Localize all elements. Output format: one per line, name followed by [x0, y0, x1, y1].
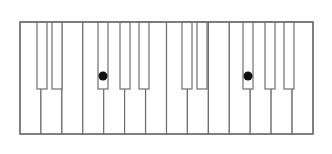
- white-key-b2: [292, 22, 313, 134]
- marker-dot-f-sharp2: [244, 72, 253, 81]
- piano-keyboard-diagram: [0, 0, 332, 154]
- black-key-c-sharp1: [37, 22, 47, 89]
- marker-dot-f-sharp1: [99, 72, 108, 81]
- white-key-e1: [62, 22, 83, 134]
- black-key-a-sharp2: [284, 22, 294, 89]
- black-key-d-sharp1: [52, 22, 62, 89]
- black-key-g-sharp1: [120, 22, 130, 89]
- black-key-d-sharp2: [197, 22, 207, 89]
- black-key-c-sharp2: [182, 22, 192, 89]
- black-key-g-sharp2: [265, 22, 275, 89]
- white-key-e2: [208, 22, 229, 134]
- black-key-a-sharp1: [139, 22, 149, 89]
